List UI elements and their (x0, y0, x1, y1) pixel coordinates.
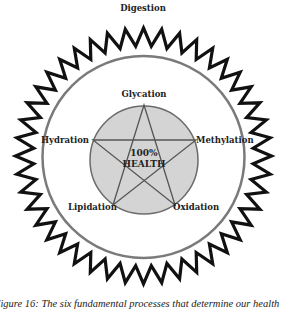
label-methylation: Methylation (196, 135, 254, 145)
center-health: HEALTH (122, 159, 166, 169)
label-glycation: Glycation (121, 89, 166, 99)
figure-caption: Figure 16: The six fundamental processes… (0, 298, 285, 309)
label-lipidation: Lipidation (68, 202, 117, 212)
label-digestion: Digestion (120, 3, 166, 13)
health-diagram: Digestion Glycation Methylation Hydratio… (0, 0, 285, 321)
center-percent: 100% (130, 148, 158, 158)
label-hydration: Hydration (41, 135, 89, 145)
label-oxidation: Oxidation (173, 202, 219, 212)
